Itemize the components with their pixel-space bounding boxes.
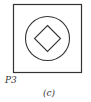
figure-caption: (c) [43,89,55,98]
figure-label: P3 [5,76,17,85]
outer-square [14,5,82,73]
inner-diamond [35,26,61,52]
diagram-canvas [0,0,91,102]
middle-circle [26,17,70,61]
